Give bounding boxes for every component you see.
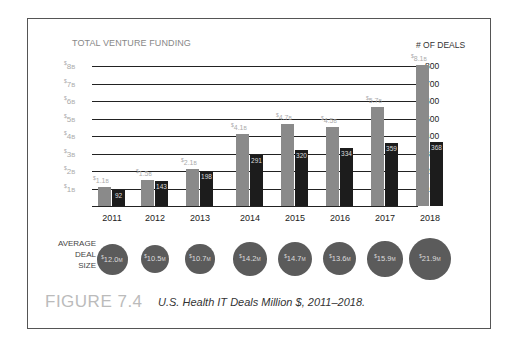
gridline [92, 66, 418, 67]
year-label: 2014 [230, 213, 270, 223]
funding-value-label: $5.7B [366, 95, 382, 104]
funding-bar [98, 187, 111, 206]
funding-value-label: $1.5B [136, 168, 152, 177]
deal-size-bubble: $14.7M [278, 242, 312, 276]
left-tick-label: $5B [64, 113, 94, 124]
deals-value-label: 291 [250, 157, 263, 164]
year-label: 2016 [320, 213, 360, 223]
gridline [92, 136, 418, 137]
deals-value-label: 320 [295, 152, 308, 159]
avg-label-line: AVERAGE [48, 238, 96, 249]
deals-value-label: 143 [155, 183, 168, 190]
funding-bar [186, 169, 199, 206]
deals-value-label: 92 [112, 192, 125, 199]
year-label: 2012 [135, 213, 175, 223]
figure-label: FIGURE 7.4 [45, 292, 143, 312]
left-axis-title: TOTAL VENTURE FUNDING [72, 38, 191, 48]
left-tick-label: $8B [64, 60, 94, 71]
deals-bar [430, 142, 443, 206]
funding-bar [416, 65, 429, 206]
funding-value-label: $2.1B [181, 157, 197, 166]
left-tick-label: $4B [64, 130, 94, 141]
year-label: 2015 [275, 213, 315, 223]
left-tick-label: $6B [64, 95, 94, 106]
funding-value-label: $8.1B [411, 53, 427, 62]
left-tick-label: $3B [64, 148, 94, 159]
year-label: 2018 [410, 213, 450, 223]
deals-value-label: 198 [200, 173, 213, 180]
deal-size-bubble: $12.0M [97, 244, 128, 275]
year-label: 2011 [92, 213, 132, 223]
deal-size-bubble: $21.9M [409, 238, 451, 280]
deal-size-bubble: $14.2M [233, 242, 267, 276]
avg-label-line: DEAL [48, 249, 96, 260]
right-axis-title: # OF DEALS [416, 40, 465, 50]
deals-value-label: 359 [385, 145, 398, 152]
deal-size-bubble: $10.7M [185, 244, 214, 273]
funding-value-label: $4.5B [321, 115, 337, 124]
funding-bar [236, 134, 249, 206]
funding-bar [326, 127, 339, 206]
gridline [92, 84, 418, 85]
funding-value-label: $4.1B [231, 122, 247, 131]
funding-bar [141, 180, 154, 206]
deal-size-bubble: $15.9M [367, 241, 403, 277]
left-tick-label: $2B [64, 165, 94, 176]
left-tick-label: $1B [64, 183, 94, 194]
deals-value-label: 334 [340, 150, 353, 157]
avg-label-line: SIZE [48, 260, 96, 271]
year-label: 2017 [365, 213, 405, 223]
funding-value-label: $4.7B [276, 112, 292, 121]
gridline [92, 119, 418, 120]
average-deal-size-label: AVERAGE DEAL SIZE [48, 238, 96, 271]
funding-value-label: $1.1B [93, 175, 109, 184]
baseline [92, 206, 418, 207]
deals-value-label: 368 [430, 144, 443, 151]
deals-bar [385, 143, 398, 206]
year-label: 2013 [180, 213, 220, 223]
left-tick-label: $7B [64, 78, 94, 89]
funding-bar [281, 124, 294, 206]
figure-caption: U.S. Health IT Deals Million $, 2011–201… [158, 296, 365, 308]
funding-bar [371, 107, 384, 206]
